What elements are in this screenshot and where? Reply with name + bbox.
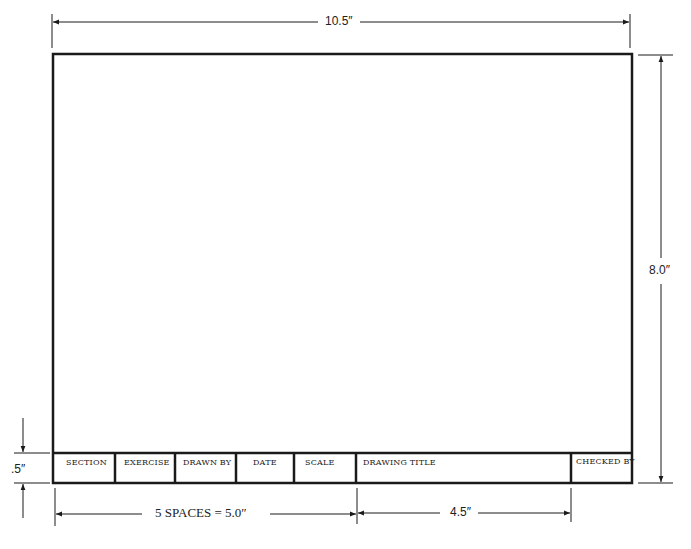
- title-block-exercise: EXERCISE: [124, 458, 170, 467]
- title-block-checked-by: CHECKED BY: [576, 457, 635, 466]
- title-block-drawn-by: DRAWN BY: [183, 458, 231, 467]
- title-block-drawing-title: DRAWING TITLE: [363, 458, 436, 467]
- title-block-scale: SCALE: [305, 458, 335, 467]
- spaces-label: 5 SPACES = 5.0″: [152, 505, 250, 521]
- title-block-height-label: .5″: [11, 462, 25, 476]
- bottom-dimensions: [55, 488, 571, 526]
- sheet-border: [53, 54, 632, 483]
- title-block-date: DATE: [253, 458, 277, 467]
- height-label: 8.0″: [646, 263, 673, 277]
- drawing-title-width-label: 4.5″: [447, 505, 474, 519]
- width-label: 10.5″: [322, 14, 356, 28]
- title-block-section: SECTION: [66, 458, 107, 467]
